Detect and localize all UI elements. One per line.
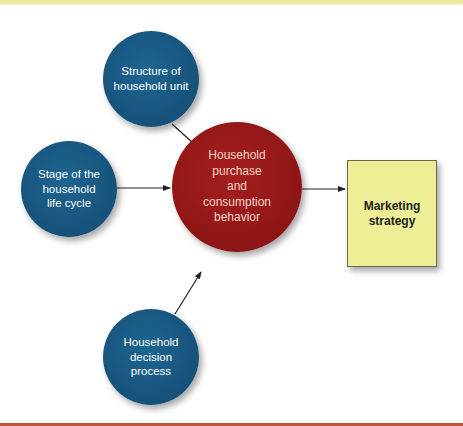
node-label: Household decision process — [124, 335, 179, 379]
node-household-purchase-consumption-behavior: Household purchase and consumption behav… — [172, 122, 302, 252]
node-label: Marketing strategy — [364, 199, 421, 229]
node-household-decision-process: Household decision process — [103, 309, 199, 405]
node-label: Stage of the household life cycle — [38, 167, 100, 211]
node-label: Structure of household unit — [114, 64, 189, 93]
arrow-decision-to-behavior — [175, 272, 201, 314]
node-marketing-strategy: Marketing strategy — [347, 160, 437, 267]
node-structure-of-household-unit: Structure of household unit — [103, 31, 199, 127]
node-label: Household purchase and consumption behav… — [203, 148, 271, 226]
node-stage-of-household-life-cycle: Stage of the household life cycle — [21, 141, 117, 237]
